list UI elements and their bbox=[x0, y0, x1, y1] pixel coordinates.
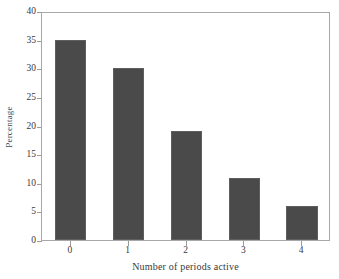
x-axis-tick-label: 0 bbox=[68, 246, 73, 256]
y-axis-tick-label: 20 bbox=[27, 122, 37, 132]
plot-area bbox=[41, 12, 330, 241]
x-axis-tick-labels: 01234 bbox=[41, 246, 330, 260]
y-axis-tick-label: 25 bbox=[27, 93, 37, 103]
x-axis-title: Number of periods active bbox=[41, 261, 330, 272]
bar-4 bbox=[286, 206, 317, 240]
bar-0 bbox=[55, 40, 86, 240]
bar-3 bbox=[229, 178, 260, 240]
x-axis-tick-label: 4 bbox=[299, 246, 304, 256]
x-axis-tick-label: 2 bbox=[183, 246, 188, 256]
y-axis-tick-label: 30 bbox=[27, 65, 37, 75]
y-axis-tick-label: 10 bbox=[27, 179, 37, 189]
y-axis-tick-labels: 0510152025303540 bbox=[16, 12, 36, 241]
x-axis-tick-label: 3 bbox=[241, 246, 246, 256]
x-axis-tick-label: 1 bbox=[125, 246, 130, 256]
y-axis-tick-label: 35 bbox=[27, 36, 37, 46]
y-axis-tick-label: 15 bbox=[27, 150, 37, 160]
bar-chart-figure: Percentage 0510152025303540 01234 Number… bbox=[0, 0, 339, 279]
bar-1 bbox=[113, 68, 144, 240]
y-axis-tick-label: 40 bbox=[27, 7, 37, 17]
bar-2 bbox=[171, 131, 202, 240]
y-axis-title: Percentage bbox=[4, 106, 14, 147]
bars-container bbox=[42, 13, 329, 240]
